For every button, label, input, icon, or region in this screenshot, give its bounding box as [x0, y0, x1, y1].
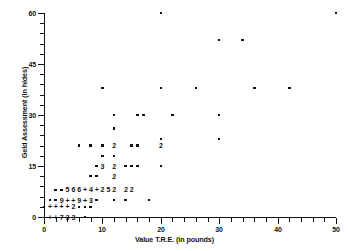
x-axis-title: Value T.R.E. (in pounds)	[0, 235, 349, 244]
x-tick-minor	[149, 218, 150, 222]
data-point	[84, 216, 87, 219]
x-tick-major	[102, 218, 103, 224]
y-tick-minor	[40, 197, 44, 198]
data-point	[160, 165, 163, 168]
x-tick-minor	[196, 218, 197, 222]
y-tick-minor	[40, 33, 44, 34]
x-tick-minor	[266, 218, 267, 222]
x-tick-minor	[137, 218, 138, 222]
data-point-multiplicity: 2	[110, 142, 118, 149]
x-tick-minor	[254, 218, 255, 222]
data-point-multiplicity: 2	[128, 186, 136, 193]
x-tick-minor	[243, 218, 244, 222]
x-tick-label: 10	[91, 226, 113, 233]
x-tick-minor	[126, 218, 127, 222]
data-point-multiplicity: 2	[110, 173, 118, 180]
y-tick-minor	[40, 54, 44, 55]
y-tick-label: 0	[32, 214, 36, 221]
x-tick-minor	[324, 218, 325, 222]
y-tick-minor	[40, 84, 44, 85]
y-tick-minor	[40, 125, 44, 126]
x-tick-label: 20	[150, 226, 172, 233]
data-point	[89, 144, 92, 147]
data-point-multiplicity: 3	[87, 197, 95, 204]
x-tick-major	[161, 218, 162, 224]
data-point	[89, 175, 92, 178]
x-tick-minor	[231, 218, 232, 222]
data-point	[49, 199, 52, 202]
data-point	[89, 206, 92, 209]
data-point	[253, 87, 256, 90]
x-tick-minor	[313, 218, 314, 222]
data-point	[95, 199, 98, 202]
y-tick-minor	[40, 74, 44, 75]
data-point	[241, 39, 244, 42]
data-point	[218, 138, 221, 141]
y-tick-label: 45	[29, 61, 36, 68]
data-point	[335, 12, 338, 15]
data-point	[136, 165, 139, 168]
x-tick-major	[278, 218, 279, 224]
data-point	[136, 144, 139, 147]
y-tick-minor	[40, 156, 44, 157]
x-tick-label: 30	[208, 226, 230, 233]
data-point	[218, 114, 221, 117]
data-point	[130, 144, 133, 147]
data-point	[148, 199, 151, 202]
data-point	[78, 206, 81, 209]
y-tick-label: 15	[29, 163, 36, 170]
data-point	[160, 138, 163, 141]
x-tick-minor	[91, 218, 92, 222]
data-point	[113, 114, 116, 117]
y-tick-minor	[40, 146, 44, 147]
y-tick-major	[38, 64, 44, 65]
data-point	[95, 165, 98, 168]
data-point	[113, 127, 116, 130]
data-point-multiplicity: 2	[110, 163, 118, 170]
x-axis-line	[44, 217, 336, 218]
data-point	[101, 155, 104, 158]
x-tick-minor	[301, 218, 302, 222]
x-tick-minor	[79, 218, 80, 222]
y-tick-minor	[40, 135, 44, 136]
data-point	[101, 144, 104, 147]
x-tick-label: 0	[33, 226, 55, 233]
data-point	[113, 155, 116, 158]
x-tick-minor	[184, 218, 185, 222]
data-point	[218, 39, 221, 42]
y-tick-minor	[40, 186, 44, 187]
x-tick-minor	[208, 218, 209, 222]
scatter-plot-figure: 01530456001020304050 Value T.R.E. (in po…	[0, 0, 349, 251]
y-tick-minor	[40, 95, 44, 96]
data-point	[124, 199, 127, 202]
data-point	[160, 12, 163, 15]
data-point	[78, 144, 81, 147]
data-point	[136, 114, 139, 117]
x-tick-minor	[114, 218, 115, 222]
data-point	[195, 87, 198, 90]
data-point-multiplicity: 3	[98, 163, 106, 170]
x-tick-major	[336, 218, 337, 224]
y-tick-label: 30	[29, 112, 36, 119]
y-tick-label: 60	[29, 10, 36, 17]
data-point	[113, 199, 116, 202]
x-tick-minor	[289, 218, 290, 222]
data-point	[124, 165, 127, 168]
data-point-multiplicity: 2	[110, 186, 118, 193]
y-tick-minor	[40, 44, 44, 45]
data-point	[84, 206, 87, 209]
y-axis-title: Geld Assessment (in hides)	[20, 33, 29, 193]
y-tick-major	[38, 166, 44, 167]
x-tick-label: 40	[267, 226, 289, 233]
data-point	[142, 114, 145, 117]
x-tick-label: 50	[325, 226, 347, 233]
y-tick-major	[38, 13, 44, 14]
y-tick-minor	[40, 105, 44, 106]
data-point	[160, 87, 163, 90]
data-point	[171, 114, 174, 117]
data-point-multiplicity: 3	[69, 214, 77, 221]
y-tick-minor	[40, 23, 44, 24]
data-point-multiplicity: 2	[69, 203, 77, 210]
data-point-multiplicity: 2	[157, 142, 165, 149]
x-tick-minor	[172, 218, 173, 222]
